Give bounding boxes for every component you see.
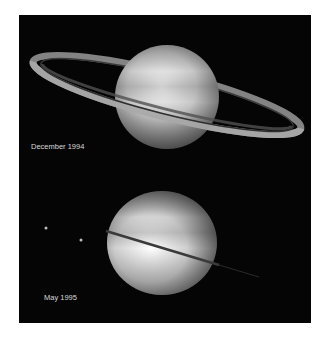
- moon-dot: [45, 227, 48, 230]
- saturn-illustration: [19, 15, 311, 323]
- panel-label-may-1995: May 1995: [44, 293, 77, 302]
- saturn-1995: [45, 191, 260, 295]
- panel-label-december-1994: December 1994: [31, 142, 84, 151]
- saturn-figure-panel: December 1994 May 1995: [19, 15, 311, 323]
- moon-dot: [80, 239, 83, 242]
